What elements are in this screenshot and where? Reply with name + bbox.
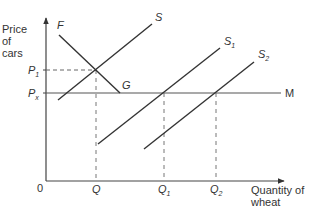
q-label: Q	[92, 183, 101, 195]
svg-text:P1: P1	[28, 64, 39, 78]
supply-curve-s2	[144, 62, 254, 149]
svg-text:S: S	[155, 11, 163, 23]
svg-text:S2: S2	[258, 48, 269, 62]
q2-subscript: 2	[218, 190, 223, 197]
curve-label-g: G	[122, 79, 131, 91]
y-axis-label-line1: Price	[2, 23, 27, 35]
svg-text:Px: Px	[28, 87, 39, 101]
svg-text:S1: S1	[224, 35, 235, 49]
svg-text:Quantity of wheat: Quantity of wheat	[250, 184, 307, 208]
s2-subscript: 2	[264, 55, 269, 62]
q1-subscript: 1	[167, 190, 171, 197]
y-axis-label-line3: cars	[2, 47, 23, 59]
economics-diagram: Price of cars P1 Px 0 Q Q1 Q2 Quantity o…	[0, 0, 324, 212]
px-subscript: x	[34, 94, 39, 101]
origin-label: 0	[37, 182, 43, 194]
supply-curve-s	[58, 24, 152, 100]
s1-subscript: 1	[231, 42, 235, 49]
svg-text:Q2: Q2	[210, 183, 223, 197]
x-axis-label-line1: Quantity of	[251, 184, 305, 196]
curve-label-s: S	[155, 11, 163, 23]
svg-text:Q: Q	[92, 183, 101, 195]
svg-text:Price of cars: Price of cars	[2, 23, 30, 59]
y-axis-label-line2: of	[2, 35, 12, 47]
x-axis-label-line2: wheat	[250, 196, 280, 208]
svg-text:Q1: Q1	[158, 183, 171, 197]
curve-label-m: M	[285, 87, 294, 99]
curve-label-f: F	[57, 19, 65, 31]
supply-curve-s1	[98, 48, 220, 144]
p1-subscript: 1	[35, 71, 39, 78]
curve-fg	[59, 35, 120, 93]
